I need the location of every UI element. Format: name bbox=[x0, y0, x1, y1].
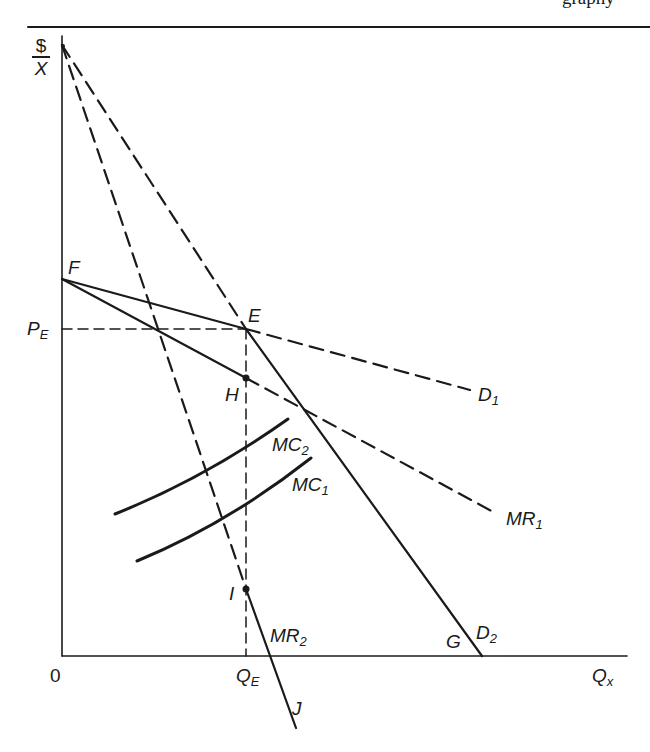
mr2-label: MR2 bbox=[270, 626, 307, 648]
mc1-curve bbox=[137, 458, 311, 561]
x-axis-label: Qx bbox=[592, 666, 613, 688]
y-axis-label: $ X bbox=[32, 36, 50, 78]
x-axis-label-sub: x bbox=[607, 674, 614, 689]
d2-label-main: D bbox=[476, 622, 490, 643]
mr2-dashed-segment bbox=[62, 45, 246, 589]
d1-label: D1 bbox=[478, 385, 499, 407]
point-i-label: I bbox=[229, 584, 234, 603]
origin-label: 0 bbox=[50, 666, 61, 685]
qe-label-main: Q bbox=[236, 665, 251, 686]
pe-label-sub: E bbox=[40, 327, 49, 342]
mc1-label-main: MC bbox=[292, 474, 322, 495]
mr2-solid-segment bbox=[246, 589, 296, 728]
x-axis-label-main: Q bbox=[592, 665, 607, 686]
mc1-label-sub: 1 bbox=[322, 483, 329, 498]
point-f-label: F bbox=[68, 258, 80, 277]
mr2-label-sub: 2 bbox=[300, 634, 307, 649]
kinked-demand-diagram: graphy $ X 0 PE QE Qx F E H I G J D1 MR1… bbox=[0, 0, 650, 752]
diagram-canvas bbox=[0, 0, 650, 752]
point-h-marker bbox=[243, 375, 250, 382]
d1-label-main: D bbox=[478, 384, 492, 405]
mr1-solid-segment bbox=[62, 279, 246, 378]
mr1-label: MR1 bbox=[506, 509, 543, 531]
qe-label: QE bbox=[236, 666, 259, 688]
top-intercept-marker bbox=[61, 44, 65, 48]
mc1-label: MC1 bbox=[292, 475, 329, 497]
d2-label: D2 bbox=[476, 623, 497, 645]
mr1-label-sub: 1 bbox=[536, 517, 543, 532]
y-axis-label-numerator: $ bbox=[32, 36, 50, 58]
point-e-label: E bbox=[248, 306, 261, 325]
point-i-marker bbox=[243, 586, 250, 593]
mr1-label-main: MR bbox=[506, 508, 536, 529]
d2-solid-segment bbox=[246, 329, 482, 656]
mc2-label: MC2 bbox=[272, 435, 309, 457]
mc2-label-sub: 2 bbox=[302, 443, 309, 458]
point-g-label: G bbox=[446, 632, 461, 651]
pe-label-main: P bbox=[27, 318, 40, 339]
d1-dashed-segment bbox=[246, 329, 470, 390]
point-j-label: J bbox=[292, 699, 302, 718]
mc2-curve bbox=[115, 419, 288, 514]
mr2-label-main: MR bbox=[270, 625, 300, 646]
d2-label-sub: 2 bbox=[490, 631, 497, 646]
pe-label: PE bbox=[27, 319, 48, 341]
header-fragment: graphy bbox=[562, 0, 615, 7]
qe-label-sub: E bbox=[251, 674, 260, 689]
d1-label-sub: 1 bbox=[492, 393, 499, 408]
y-axis-label-denominator: X bbox=[32, 58, 50, 78]
point-h-label: H bbox=[225, 385, 239, 404]
mc2-label-main: MC bbox=[272, 434, 302, 455]
